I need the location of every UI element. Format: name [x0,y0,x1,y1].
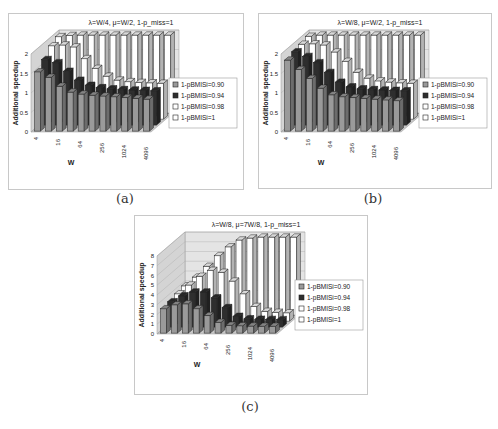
legend-label: 1-pBMISi=0.98 [181,103,225,111]
bar [372,96,382,131]
legend-label: 1-pBMISi=0.98 [307,305,351,313]
bar [361,95,371,131]
bar [78,91,88,131]
x-tick-label: 16 [55,138,61,145]
y-tick-label: 1.5 [20,71,29,77]
caption-c: (c) [230,399,270,414]
legend-swatch [173,104,178,109]
x-tick-label: 1024 [247,346,253,360]
y-tick-label: 1 [25,90,29,96]
legend-label: 1-pBMISi=0.90 [307,283,351,291]
y-tick-label: 5 [151,282,155,288]
bar [193,305,203,333]
legend-swatch [299,284,304,289]
chart-panel-b: λ=W/8, μ=W/2, 1-p_miss=100.511.52Additio… [258,13,492,189]
bar [317,85,327,131]
bar [280,234,290,315]
chart-title: λ=W/8, μ=W/2, 1-p_miss=1 [338,19,423,27]
legend-swatch [423,104,428,109]
bar [133,95,143,131]
bar [285,57,295,131]
y-tick-label: 2 [275,51,279,57]
legend-swatch [423,115,428,120]
bar [45,74,55,131]
legend-label: 1-pBMISi=0.94 [431,92,475,100]
bar [100,93,110,131]
bar [122,94,132,131]
y-tick-label: 7 [151,263,155,269]
x-tick-label: 256 [225,344,231,355]
bar [56,83,66,131]
y-tick-label: 4 [151,292,155,298]
chart-title: λ=W/4, μ=W/2, 1-p_miss=1 [89,19,174,27]
x-tick-label: 1024 [371,144,377,158]
bar [204,312,214,333]
y-tick-label: 3 [151,302,155,308]
bar [339,93,349,131]
bar [383,97,393,132]
x-tick-label: 64 [203,342,209,349]
legend-label: 1-pBMISi=0.98 [431,103,475,111]
bar [161,305,171,333]
y-axis-label: Additional speedup [12,61,20,126]
y-tick-label: 1.5 [270,71,279,77]
y-tick-label: 0.5 [20,110,29,116]
y-tick-label: 0 [25,129,29,135]
caption-a: (a) [105,191,145,206]
y-tick-label: 0 [151,331,155,337]
y-tick-label: 0 [275,129,279,135]
legend-label: 1-pBMISi=1 [181,114,216,122]
legend-swatch [173,93,178,98]
legend-label: 1-pBMISi=1 [431,114,466,122]
legend-label: 1-pBMISi=0.90 [181,81,225,89]
chart-c-svg: λ=W/8, μ=7W/8, 1-p_miss=1012345678Additi… [135,216,367,394]
y-tick-label: 2 [151,312,155,318]
y-tick-label: 1 [275,90,279,96]
bar [269,234,279,315]
x-axis-label: W [68,159,75,166]
chart-panel-a: λ=W/4, μ=W/2, 1-p_miss=100.511.52Additio… [8,13,244,190]
legend-swatch [423,82,428,87]
bar [258,234,268,315]
chart-panel-c: λ=W/8, μ=7W/8, 1-p_miss=1012345678Additi… [134,215,368,395]
x-tick-label: 64 [327,140,333,147]
legend-swatch [299,317,304,322]
x-tick-label: 64 [77,140,83,147]
y-tick-label: 6 [151,273,155,279]
bar [67,89,77,131]
legend-swatch [173,115,178,120]
x-tick-label: 16 [305,138,311,145]
x-tick-label: 4096 [269,348,275,362]
bar [328,92,338,132]
chart-a-svg: λ=W/4, μ=W/2, 1-p_miss=100.511.52Additio… [9,14,243,189]
bar [306,75,316,131]
bar [35,69,45,132]
chart-b-svg: λ=W/8, μ=W/2, 1-p_miss=100.511.52Additio… [259,14,491,188]
legend-label: 1-pBMISi=0.90 [431,81,475,89]
bar [171,302,181,334]
x-tick-label: 4096 [143,146,149,160]
x-tick-label: 4 [33,136,39,140]
y-tick-label: 0.5 [270,110,279,116]
bar [182,301,192,334]
legend-label: 1-pBMISi=1 [307,316,342,324]
legend-swatch [423,93,428,98]
bar [144,96,154,131]
y-tick-label: 1 [151,321,155,327]
legend-swatch [299,295,304,300]
chart-title: λ=W/8, μ=7W/8, 1-p_miss=1 [212,221,301,229]
x-tick-label: 256 [349,142,355,153]
x-tick-label: 16 [181,340,187,347]
bar [394,97,404,131]
bar [89,92,99,131]
x-tick-label: 4 [159,338,165,342]
x-tick-label: 4096 [393,146,399,160]
x-axis-label: W [318,159,325,166]
y-axis-label: Additional speedup [138,263,146,328]
y-tick-label: 2 [25,51,29,57]
y-tick-label: 8 [151,253,155,259]
x-axis-label: W [194,361,201,368]
x-tick-label: 4 [283,136,289,140]
legend-label: 1-pBMISi=0.94 [307,294,351,302]
x-tick-label: 256 [99,142,105,153]
